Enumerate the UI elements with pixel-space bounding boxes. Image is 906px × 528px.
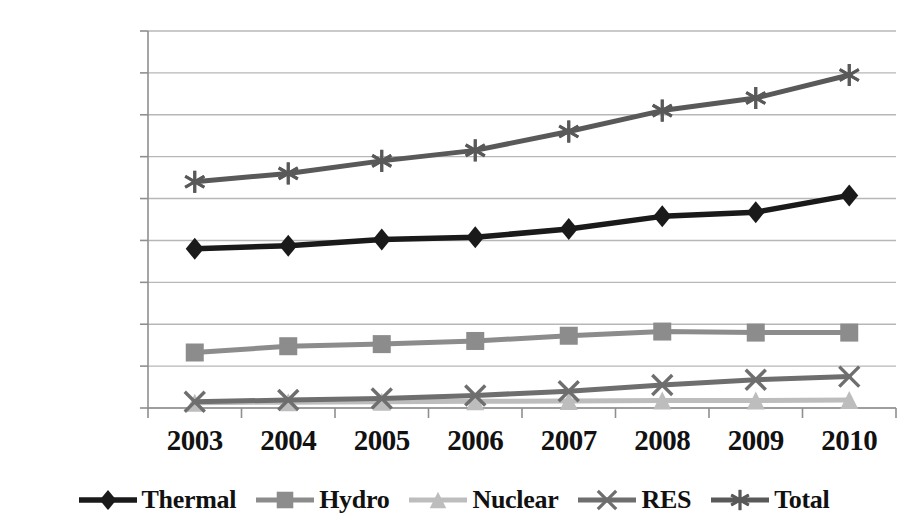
legend-label: Total xyxy=(774,487,829,513)
x-axis-label: 2004 xyxy=(260,424,316,457)
marker-square xyxy=(279,337,297,355)
x-axis-label: 2006 xyxy=(447,424,503,457)
marker-square xyxy=(653,323,671,341)
legend-item-total[interactable]: Total xyxy=(709,485,829,515)
marker-square xyxy=(466,332,484,350)
marker-diamond xyxy=(840,184,858,206)
legend-swatch-triangle xyxy=(407,485,469,515)
x-axis-label: 2007 xyxy=(541,424,597,457)
legend-item-nuclear[interactable]: Nuclear xyxy=(407,485,558,515)
legend-swatch-x xyxy=(576,485,638,515)
x-axis xyxy=(148,408,896,418)
marker-diamond xyxy=(279,235,297,257)
x-axis-label: 2009 xyxy=(728,424,784,457)
marker-diamond xyxy=(373,228,391,250)
legend-item-thermal[interactable]: Thermal xyxy=(77,485,237,515)
marker-square xyxy=(277,492,294,509)
marker-diamond xyxy=(99,490,116,510)
legend-item-hydro[interactable]: Hydro xyxy=(254,485,389,515)
marker-diamond xyxy=(653,205,671,227)
gridlines xyxy=(148,31,896,408)
series-line-total xyxy=(195,75,850,182)
marker-square xyxy=(560,327,578,345)
line-chart: 020,00040,00060,00080,000100,000120,0001… xyxy=(0,0,906,528)
marker-square xyxy=(373,335,391,353)
series-hydro xyxy=(186,323,859,362)
marker-diamond xyxy=(747,201,765,223)
marker-square xyxy=(186,343,204,361)
x-axis-label: 2005 xyxy=(354,424,410,457)
marker-square xyxy=(747,324,765,342)
legend-label: Nuclear xyxy=(472,487,558,513)
series-line-res xyxy=(195,377,850,402)
series-thermal xyxy=(186,184,859,259)
x-axis-label: 2008 xyxy=(634,424,690,457)
marker-diamond xyxy=(466,226,484,248)
x-axis-label: 2003 xyxy=(167,424,223,457)
legend-swatch-square xyxy=(254,485,316,515)
legend-label: RES xyxy=(641,487,691,513)
y-axis xyxy=(140,31,148,409)
legend-swatch-diamond xyxy=(77,485,139,515)
legend-swatch-asterisk xyxy=(709,485,771,515)
x-axis-label: 2010 xyxy=(821,424,877,457)
series-total xyxy=(185,64,859,193)
marker-square xyxy=(840,324,858,342)
marker-diamond xyxy=(560,218,578,240)
chart-legend: ThermalHydroNuclearRESTotal xyxy=(0,480,906,520)
legend-label: Thermal xyxy=(142,487,237,513)
legend-label: Hydro xyxy=(319,487,389,513)
legend-item-res[interactable]: RES xyxy=(576,485,691,515)
